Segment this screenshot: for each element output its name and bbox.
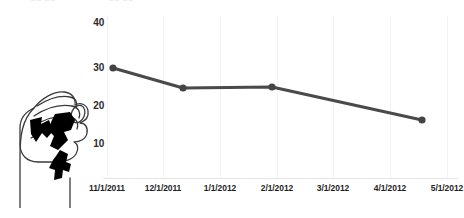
x-tick-label-2-1-2012: 2/1/2012 <box>246 183 308 193</box>
x-tick-label-4-1-2012: 4/1/2012 <box>359 183 421 193</box>
chart-gridlines <box>108 16 448 178</box>
y-tick-label-40: 40 <box>78 17 104 28</box>
data-series-line <box>113 68 422 120</box>
x-tick-label-1-1-2012: 1/1/2012 <box>189 183 251 193</box>
data-point-12-1-2011 <box>179 84 186 91</box>
line-chart: 40 30 20 10 11/1/2011 12/1/2011 1/1/2012… <box>0 0 464 218</box>
x-tick-label-3-1-2012: 3/1/2012 <box>302 183 364 193</box>
x-tick-label-12-1-2011: 12/1/2011 <box>132 183 194 193</box>
data-point-11-1-2011 <box>109 64 116 71</box>
y-tick-label-30: 30 <box>78 62 104 73</box>
x-tick-label-11-1-2011: 11/1/2011 <box>76 183 138 193</box>
data-point-2-1-2012 <box>268 83 275 90</box>
data-point-5-1-2012 <box>418 116 425 123</box>
chart-page: dd dd dd dd <box>0 0 464 218</box>
y-tick-label-20: 20 <box>78 100 104 111</box>
x-tick-label-5-1-2012: 5/1/2012 <box>416 183 464 193</box>
data-point-markers <box>109 64 425 123</box>
y-tick-label-10: 10 <box>78 138 104 149</box>
